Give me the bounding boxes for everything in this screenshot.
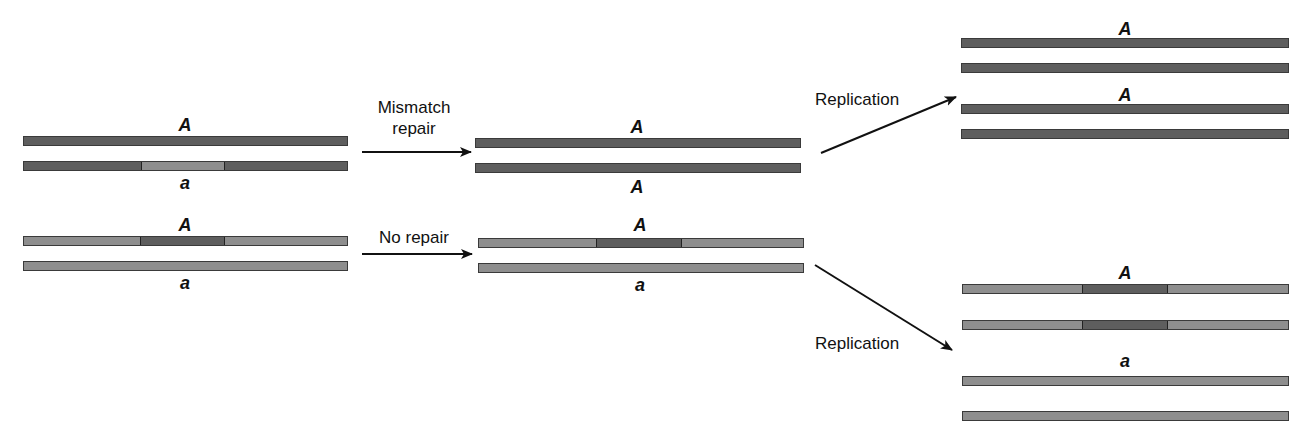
mismatch-repair-line2: repair <box>364 118 464 139</box>
dna-strand-right-bottom-3 <box>962 376 1289 386</box>
allele-label-right-top-2: A <box>1119 86 1132 104</box>
dna-strand-right-bottom-2 <box>962 320 1289 330</box>
mismatch-segment <box>141 162 225 170</box>
allele-label-left-top-lower: a <box>180 174 190 192</box>
allele-label-mid-top-upper: A <box>631 118 644 136</box>
dna-strand-mid-top-2 <box>475 163 801 173</box>
mismatch-segment <box>140 237 225 245</box>
dna-strand-mid-top-1 <box>475 138 801 148</box>
dna-strand-left-top-1 <box>23 136 348 146</box>
replication-bottom-label: Replication <box>815 333 899 354</box>
replication-top-label: Replication <box>815 89 899 110</box>
allele-label-mid-bottom-upper: A <box>634 216 647 234</box>
dna-strand-right-bottom-1 <box>962 284 1289 294</box>
mismatch-repair-line1: Mismatch <box>364 97 464 118</box>
dna-strand-left-top-2 <box>23 161 348 171</box>
mismatch-segment <box>1082 285 1168 293</box>
allele-label-mid-top-lower: A <box>631 178 644 196</box>
allele-label-left-bottom-lower: a <box>180 274 190 292</box>
mismatch-segment <box>1082 321 1168 329</box>
allele-label-left-top-upper: A <box>179 116 192 134</box>
dna-strand-right-top-1 <box>961 38 1289 48</box>
allele-label-left-bottom-upper: A <box>179 216 192 234</box>
allele-label-right-top-1: A <box>1119 20 1132 38</box>
dna-strand-right-bottom-4 <box>962 411 1289 421</box>
allele-label-right-bottom-2: a <box>1120 352 1130 370</box>
dna-strand-right-top-4 <box>961 129 1289 139</box>
dna-strand-mid-bottom-2 <box>478 263 804 273</box>
allele-label-mid-bottom-lower: a <box>635 276 645 294</box>
dna-strand-left-bottom-1 <box>23 236 348 246</box>
dna-strand-mid-bottom-1 <box>478 238 804 248</box>
mismatch-segment <box>596 239 682 247</box>
dna-strand-left-bottom-2 <box>23 261 348 271</box>
dna-strand-right-top-2 <box>961 63 1289 73</box>
mismatch-repair-label: Mismatch repair <box>364 97 464 139</box>
allele-label-right-bottom-1: A <box>1119 264 1132 282</box>
dna-strand-right-top-3 <box>961 104 1289 114</box>
no-repair-label: No repair <box>364 227 464 248</box>
